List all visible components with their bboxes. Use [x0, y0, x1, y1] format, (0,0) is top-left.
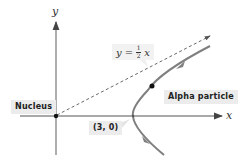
equation-fraction: 1 2	[136, 45, 141, 59]
hyperbola-diagram: y x y = 1 2 x Nucleus Alpha particle (3,…	[0, 0, 238, 166]
alpha-particle-dot	[150, 84, 155, 89]
equation-rhs: x	[144, 47, 150, 58]
fraction-denominator: 2	[137, 53, 141, 59]
y-axis-label: y	[52, 5, 58, 18]
vertex-label: (3, 0)	[89, 121, 122, 135]
nucleus-dot	[54, 114, 58, 118]
nucleus-label: Nucleus	[11, 100, 56, 114]
equation-lhs: y =	[116, 47, 133, 58]
diagram-canvas	[0, 0, 238, 166]
vertex-dot	[132, 115, 134, 117]
alpha-particle-label: Alpha particle	[164, 90, 238, 104]
asymptote-equation: y = 1 2 x	[112, 44, 154, 60]
fraction-numerator: 1	[137, 45, 141, 51]
x-axis-label: x	[226, 109, 232, 122]
